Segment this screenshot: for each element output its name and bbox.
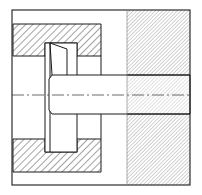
cross-section-drawing — [0, 0, 202, 195]
shaft-fine-hatch-overlay — [127, 75, 190, 114]
